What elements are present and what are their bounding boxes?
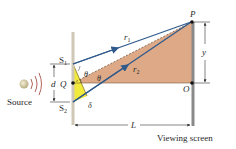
label-theta-lower: θ xyxy=(97,74,101,83)
label-s1: S1 xyxy=(59,55,67,66)
label-y: y xyxy=(201,47,206,57)
point-q xyxy=(71,81,75,85)
slit-barrier xyxy=(72,32,75,125)
label-d: d xyxy=(51,79,56,89)
label-p: P xyxy=(189,9,196,19)
source-icon xyxy=(20,80,29,89)
angle-arc-lower xyxy=(78,66,80,71)
label-viewing-screen: Viewing screen xyxy=(157,133,213,143)
label-o: O xyxy=(183,84,190,94)
ray-r1-arrow xyxy=(73,48,118,64)
wave-icon xyxy=(31,73,42,95)
label-s2: S2 xyxy=(59,103,67,114)
label-l: L xyxy=(130,120,136,130)
label-source: Source xyxy=(7,97,32,107)
double-slit-diagram: S1 S2 Q d Source θ θ δ r1 r2 P O y L Vie… xyxy=(0,0,236,149)
point-o xyxy=(190,81,194,85)
viewing-screen xyxy=(192,22,195,126)
label-r1: r1 xyxy=(124,32,131,43)
label-q: Q xyxy=(60,79,67,89)
point-p xyxy=(190,20,194,24)
label-delta: δ xyxy=(88,101,92,110)
label-theta-upper: θ xyxy=(84,70,88,79)
